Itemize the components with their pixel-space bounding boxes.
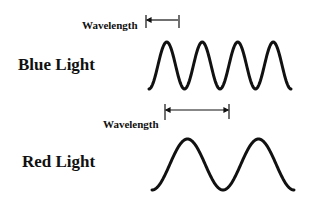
red-wavelength-marker [165, 104, 229, 120]
blue-wavelength-marker [146, 15, 179, 28]
blue-light-wave [149, 42, 291, 89]
diagram-canvas [0, 0, 312, 208]
red-light-wave [152, 139, 294, 190]
